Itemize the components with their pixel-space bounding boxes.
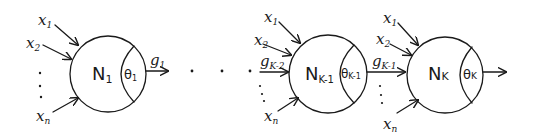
input-label-x2: x2 bbox=[254, 31, 268, 50]
input-label-xn: xn bbox=[36, 107, 50, 126]
input-arrow-xn bbox=[278, 98, 298, 111]
input-arrow-x2 bbox=[390, 44, 411, 55]
input-ellipsis-dot bbox=[39, 72, 41, 74]
connection-k-minus-1-to-k: gK-1 bbox=[367, 52, 405, 104]
input-label-xn: xn bbox=[383, 115, 397, 134]
neuron-1-theta: θ1 bbox=[124, 67, 137, 83]
input-label-x1: x1 bbox=[38, 11, 52, 30]
input-label-g-k-minus-2: gK-2 bbox=[260, 52, 285, 71]
input-label-x1: x1 bbox=[383, 9, 397, 28]
input-arrow-x1 bbox=[55, 25, 78, 45]
neuron-chain-diagram: N1 θ1 x1 x2 xn g1 NK-1 θK-1 x1 x2 gK-2 x… bbox=[0, 0, 534, 137]
neuron-k-minus-1: NK-1 θK-1 x1 x2 gK-2 xn bbox=[254, 8, 367, 126]
input-label-x2: x2 bbox=[26, 34, 40, 53]
input-arrow-x2 bbox=[43, 45, 71, 59]
input-arrow-x1 bbox=[279, 22, 300, 43]
input-arrow-x1 bbox=[398, 23, 418, 45]
input-ellipsis-dot bbox=[39, 85, 41, 87]
neuron-1-label: N1 bbox=[92, 63, 112, 86]
input-arrow-xn bbox=[53, 98, 78, 112]
input-ellipsis-dot bbox=[259, 85, 261, 87]
input-label-x2: x2 bbox=[376, 30, 390, 49]
input-ellipsis-dot bbox=[263, 100, 265, 102]
input-label-xn: xn bbox=[264, 107, 278, 126]
label-g-k-minus-1: gK-1 bbox=[372, 52, 396, 71]
neuron-1: N1 θ1 x1 x2 xn g1 bbox=[26, 11, 168, 126]
chain-ellipsis bbox=[191, 70, 252, 73]
output-label-g1: g1 bbox=[150, 51, 165, 70]
neuron-k-minus-1-label: NK-1 bbox=[305, 63, 334, 85]
input-label-x1: x1 bbox=[264, 8, 278, 27]
neuron-k-theta: θK bbox=[463, 67, 478, 82]
neuron-k-label: NK bbox=[428, 63, 449, 84]
input-ellipsis-dot bbox=[40, 96, 42, 98]
input-ellipsis-dot bbox=[261, 93, 263, 95]
neuron-k-minus-1-theta: θK-1 bbox=[341, 67, 361, 81]
input-arrow-xn bbox=[397, 100, 418, 113]
